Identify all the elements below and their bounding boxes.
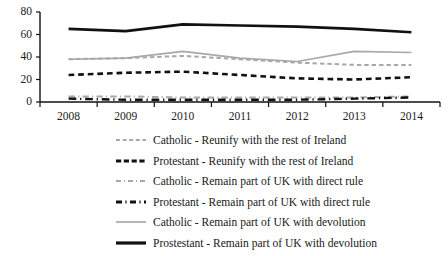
legend-line-swatch (116, 216, 146, 228)
legend-label: Protestant - Remain part of UK with dire… (153, 196, 370, 208)
legend-catholic-direct-rule[interactable]: Catholic - Remain part of UK with direct… (116, 171, 448, 192)
legend-line-swatch (116, 175, 146, 187)
y-axis-tick-label: 0 (6, 96, 32, 108)
series-line-2 (69, 96, 412, 97)
line-chart-svg (0, 0, 448, 128)
x-axis-tick-label: 2009 (104, 111, 148, 123)
legend-line-swatch (116, 237, 146, 249)
legend-catholic-reunify[interactable]: Catholic - Reunify with the rest of Irel… (116, 130, 448, 151)
legend-protestant-devolution[interactable]: Prostestant - Remain part of UK with dev… (116, 233, 448, 254)
legend-line-swatch (116, 155, 146, 167)
legend-catholic-devolution[interactable]: Catholic - Remain part of UK with devolu… (116, 212, 448, 233)
series-line-1 (69, 72, 412, 80)
legend-protestant-direct-rule[interactable]: Protestant - Remain part of UK with dire… (116, 192, 448, 213)
series-line-0 (69, 56, 412, 65)
y-axis-tick-label: 60 (6, 29, 32, 41)
x-axis-tick-label: 2014 (389, 111, 433, 123)
legend-protestant-reunify[interactable]: Protestant - Reunify with the rest of Ir… (116, 151, 448, 172)
y-axis-tick-label: 40 (6, 51, 32, 63)
x-axis-tick-label: 2008 (47, 111, 91, 123)
legend-label: Catholic - Reunify with the rest of Irel… (153, 134, 346, 146)
legend-label: Prostestant - Remain part of UK with dev… (153, 237, 377, 249)
series-line-5 (69, 24, 412, 32)
legend-line-swatch (116, 134, 146, 146)
legend-line-swatch (116, 196, 146, 208)
legend-label: Catholic - Remain part of UK with devolu… (153, 216, 365, 228)
x-axis-tick-label: 2013 (332, 111, 376, 123)
x-axis-tick-label: 2012 (275, 111, 319, 123)
y-axis-tick-label: 80 (6, 6, 32, 18)
legend-label: Protestant - Reunify with the rest of Ir… (153, 155, 353, 167)
plot-area: 806040200 2008200920102011201220132014 (0, 0, 448, 128)
y-axis-tick-label: 20 (6, 74, 32, 86)
x-axis-tick-label: 2011 (218, 111, 262, 123)
chart-figure: 806040200 2008200920102011201220132014 C… (0, 0, 448, 256)
chart-legend: Catholic - Reunify with the rest of Irel… (116, 130, 448, 254)
legend-label: Catholic - Remain part of UK with direct… (153, 175, 363, 187)
x-axis-tick-label: 2010 (161, 111, 205, 123)
